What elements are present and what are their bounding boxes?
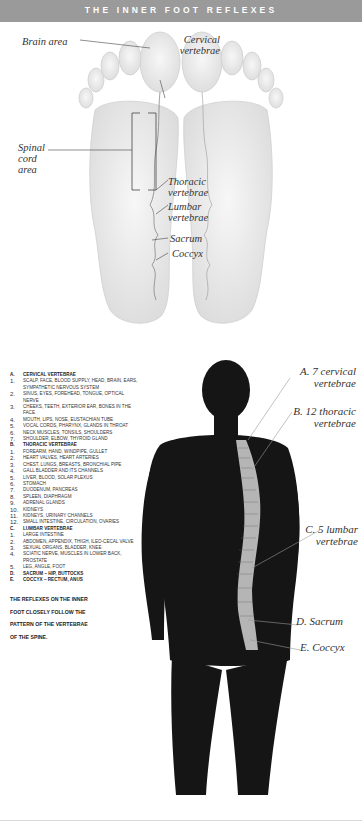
label-coccyx-e: E. Coccyx bbox=[300, 642, 362, 654]
label-cervical-vertebrae: Cervical vertebrae bbox=[168, 34, 220, 56]
label-thoracic-vertebrae: Thoracic vertebrae bbox=[168, 176, 208, 198]
divider bbox=[0, 820, 362, 821]
label-spinal-cord-area: Spinal cord area bbox=[18, 142, 45, 175]
legend-number: 3. bbox=[10, 404, 23, 417]
label-lumbar-5: C. 5 lumbar vertebrae bbox=[296, 524, 358, 547]
label-sacrum-d: D. Sacrum bbox=[296, 616, 358, 628]
label-lumbar-vertebrae: Lumbar vertebrae bbox=[168, 201, 208, 223]
legend-text: Coccyx – rectum, anus bbox=[23, 577, 140, 583]
legend-item: 4.Sciatic nerve, muscles in lower back, … bbox=[10, 551, 140, 564]
legend-section-header: E.Coccyx – rectum, anus bbox=[10, 577, 140, 583]
left-foot bbox=[79, 32, 180, 323]
label-sacrum: Sacrum bbox=[170, 233, 202, 244]
legend-number: 2. bbox=[10, 391, 23, 404]
legend-item: 3.Cheeks, teeth, exterior ear, bones in … bbox=[10, 404, 140, 417]
label-thoracic-12: B. 12 thoracic vertebrae bbox=[270, 406, 356, 429]
label-coccyx: Coccyx bbox=[172, 248, 203, 259]
legend-number: 4. bbox=[10, 551, 23, 564]
legend-text: Sinus, eyes, forehead, tongue, optical n… bbox=[23, 391, 140, 404]
legend-text: Sciatic nerve, muscles in lower back, pr… bbox=[23, 551, 140, 564]
legend-item: 2.Sinus, eyes, forehead, tongue, optical… bbox=[10, 391, 140, 404]
legend-text: Cheeks, teeth, exterior ear, bones in th… bbox=[23, 404, 140, 417]
vertebrae-legend: A.Cervical vertebrae1.Scalp, face, blood… bbox=[10, 372, 140, 643]
label-brain-area: Brain area bbox=[22, 36, 67, 47]
legend-number: 1. bbox=[10, 378, 23, 391]
label-cervical-7: A. 7 cervical vertebrae bbox=[270, 366, 356, 389]
title-bar: THE INNER FOOT REFLEXES bbox=[0, 0, 362, 22]
legend-item: 1.Scalp, face, blood supply, head, brain… bbox=[10, 378, 140, 391]
page-title: THE INNER FOOT REFLEXES bbox=[0, 5, 362, 15]
legend-text: Scalp, face, blood supply, head, brain, … bbox=[23, 378, 140, 391]
footer-note: The reflexes on the inner foot closely f… bbox=[10, 593, 90, 643]
legend-number: E. bbox=[10, 577, 23, 583]
